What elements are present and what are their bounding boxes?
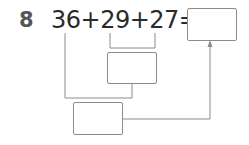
- arrow-up-icon: [208, 40, 213, 47]
- problem-number: 8: [19, 8, 34, 32]
- equation: 36+29+27=: [51, 6, 198, 34]
- intermediate-box-total[interactable]: [73, 102, 123, 135]
- answer-box[interactable]: [187, 8, 237, 41]
- intermediate-box-29-27[interactable]: [107, 52, 157, 84]
